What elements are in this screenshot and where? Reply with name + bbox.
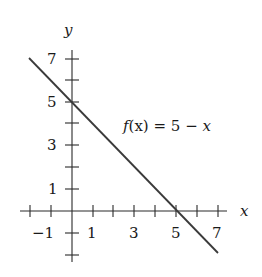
x-tick-label: 1 [87, 224, 97, 242]
y-axis-label: y [63, 21, 73, 39]
y-tick-label: 1 [48, 180, 58, 198]
func-rest: (x) = 5 − [129, 117, 203, 135]
y-tick-label: 7 [47, 50, 57, 68]
function-annotation: f(x) = 5 − x [122, 117, 211, 135]
x-axis-label: x [240, 202, 249, 220]
chart: y x 7 5 3 1 −1 1 3 5 7 f(x) = 5 − x [0, 0, 262, 277]
x-tick-label: −1 [32, 224, 54, 242]
y-tick-label: 5 [47, 93, 57, 111]
x-tick-label: 5 [171, 224, 181, 242]
y-tick-label: 3 [47, 136, 57, 154]
x-tick-label: 7 [212, 224, 222, 242]
x-tick-label: 3 [129, 224, 139, 242]
function-line [29, 58, 218, 253]
func-x: x [202, 117, 211, 135]
